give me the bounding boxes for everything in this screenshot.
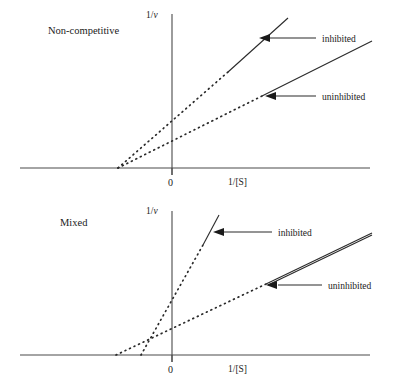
- series-label-inhibited-mixed: inhibited: [278, 228, 312, 238]
- y-axis-label-mixed: 1/v: [146, 206, 158, 216]
- uninhibited-solid-segment: [262, 41, 372, 96]
- y-axis-label-variable: v: [153, 10, 158, 20]
- x-axis-label-non-competitive: 1/[S]: [228, 177, 247, 187]
- inhibited-solid-segment: [203, 215, 219, 245]
- panel-title-mixed: Mixed: [60, 217, 88, 228]
- panel-non-competitive: Non-competitive 1/v 0 1/[S] inhibited un…: [0, 0, 393, 193]
- panel-title-non-competitive: Non-competitive: [48, 25, 119, 36]
- y-axis-label-variable: v: [153, 206, 158, 216]
- inhibited-solid-segment: [228, 18, 288, 72]
- lineweaver-burk-figure: Non-competitive 1/v 0 1/[S] inhibited un…: [0, 0, 393, 385]
- inhibited-arrowhead-icon: [259, 34, 270, 42]
- uninhibited-dotted-segment: [118, 96, 262, 168]
- series-label-uninhibited-mixed: uninhibited: [328, 281, 372, 291]
- uninhibited-solid-segment: [266, 233, 372, 284]
- origin-label-non-competitive: 0: [168, 177, 173, 188]
- origin-label-mixed: 0: [168, 364, 173, 375]
- x-axis-label-mixed: 1/[S]: [228, 364, 247, 374]
- panel-mixed: Mixed 1/v 0 1/[S] inhibited uninhibited: [0, 193, 393, 385]
- inhibited-dotted-segment: [118, 72, 228, 168]
- y-axis-label-non-competitive: 1/v: [146, 10, 158, 20]
- uninhibited-arrowhead-icon: [266, 281, 277, 289]
- series-label-inhibited-non-competitive: inhibited: [322, 34, 356, 44]
- uninhibited-dotted-segment: [116, 284, 266, 355]
- uninhibited-annotation-diagonal-leader: [268, 235, 372, 285]
- inhibited-arrowhead-icon: [213, 228, 224, 236]
- series-label-uninhibited-non-competitive: uninhibited: [322, 92, 366, 102]
